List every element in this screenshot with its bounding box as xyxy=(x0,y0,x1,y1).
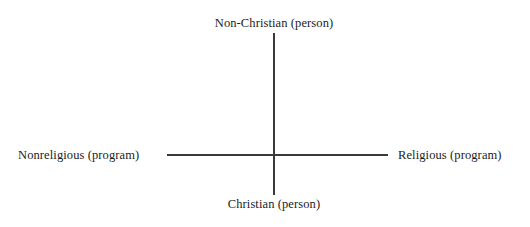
axis-label-right: Religious (program) xyxy=(398,148,502,162)
diagram-canvas: Non-Christian (person) Christian (person… xyxy=(0,0,530,227)
axis-label-bottom: Christian (person) xyxy=(0,197,530,211)
axis-label-bottom-text: Christian (person) xyxy=(228,197,320,211)
axis-label-top-text: Non-Christian (person) xyxy=(215,16,334,30)
axis-label-left: Nonreligious (program) xyxy=(18,148,139,162)
vertical-axis-line xyxy=(273,33,275,195)
horizontal-axis-line xyxy=(167,154,388,156)
axis-label-top: Non-Christian (person) xyxy=(0,16,530,30)
